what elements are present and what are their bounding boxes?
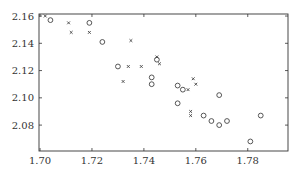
cross-marker [127, 65, 130, 68]
y-tick-label: 2.08 [12, 120, 34, 131]
y-tick-label: 2.12 [12, 65, 34, 76]
cross-marker [194, 83, 197, 86]
cross-marker [122, 80, 125, 83]
plot-frame [39, 14, 288, 151]
cross-marker [88, 31, 91, 34]
circle-marker [149, 75, 154, 80]
circle-marker [258, 113, 263, 118]
x-tick-label: 1.70 [29, 155, 51, 166]
y-tick-label: 2.14 [12, 38, 34, 49]
cross-marker [140, 65, 143, 68]
circle-marker [175, 101, 180, 106]
circle-marker [217, 123, 222, 128]
cross-marker [70, 31, 73, 34]
x-tick-label: 1.76 [185, 155, 207, 166]
x-tick-label: 1.72 [81, 155, 103, 166]
circle-marker [248, 139, 253, 144]
circle-marker [217, 93, 222, 98]
circle-marker [149, 82, 154, 87]
cross-marker [158, 62, 161, 65]
cross-marker [187, 88, 190, 91]
circle-marker [116, 64, 121, 69]
cross-marker [130, 39, 133, 42]
cross-marker [44, 15, 47, 18]
cross-marker [192, 77, 195, 80]
cross-marker [67, 21, 70, 24]
circle-marker [180, 87, 185, 92]
circle-marker [225, 119, 230, 124]
cross-marker [189, 114, 192, 117]
cross-marker [155, 56, 158, 59]
x-tick-label: 1.74 [133, 155, 155, 166]
y-tick-label: 2.10 [12, 92, 34, 103]
circle-marker [175, 83, 180, 88]
circle-marker [201, 113, 206, 118]
plot-area: 1.701.721.741.761.782.082.102.122.142.16 [0, 0, 302, 173]
circle-marker [209, 119, 214, 124]
circle-marker [48, 18, 53, 23]
y-tick-label: 2.16 [12, 11, 34, 22]
circle-marker [100, 40, 105, 45]
x-tick-label: 1.78 [237, 155, 259, 166]
circle-marker [87, 20, 92, 25]
cross-marker [189, 110, 192, 113]
scatter-chart: 1.701.721.741.761.782.082.102.122.142.16 [0, 0, 302, 173]
